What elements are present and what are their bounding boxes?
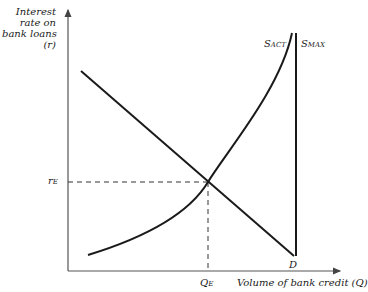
supply-actual-curve xyxy=(88,33,292,255)
x-axis-label: Volume of bank credit (Q) xyxy=(237,277,368,288)
demand-curve xyxy=(81,71,294,256)
supply-actual-label: SACT xyxy=(264,38,286,51)
supply-max-label: SMAX xyxy=(301,38,325,51)
equilibrium-quantity-label: QE xyxy=(200,277,213,290)
y-axis-label: Interest rate on bank loans (r) xyxy=(2,6,56,50)
equilibrium-rate-label: rE xyxy=(48,175,58,188)
demand-label: D xyxy=(289,259,297,270)
